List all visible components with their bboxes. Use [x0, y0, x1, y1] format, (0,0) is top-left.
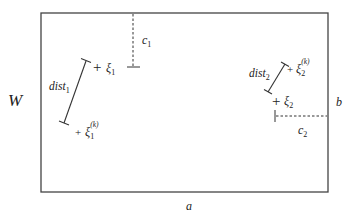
dist2-bottom-tick	[264, 90, 272, 95]
xi2k-marker: +	[287, 63, 293, 75]
dist2-label: dist2	[249, 67, 270, 82]
diagram-canvas: c1 dist1 + ξ1 + ξ1(k) dist2 + ξ2(k) + ξ2…	[0, 0, 350, 221]
side-label-w: W	[8, 91, 24, 110]
side-label-a: a	[186, 199, 192, 213]
xi2-label: ξ2	[284, 94, 293, 110]
c2-label: c2	[298, 123, 307, 139]
xi1k-label: ξ1(k)	[85, 120, 99, 141]
c1-label: c1	[142, 33, 151, 49]
xi1k-marker: +	[75, 126, 81, 138]
side-label-b: b	[336, 95, 342, 109]
dist2-segment	[268, 64, 285, 92]
dist1-label: dist1	[49, 80, 70, 95]
xi1-marker: +	[93, 59, 101, 75]
xi1-label: ξ1	[106, 61, 115, 77]
xi2-marker: +	[272, 93, 280, 109]
xi2k-label: ξ2(k)	[296, 57, 310, 78]
